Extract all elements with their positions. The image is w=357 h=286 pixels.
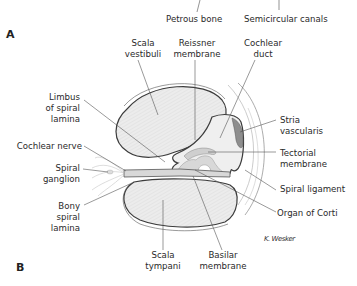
label-line: Reissner: [172, 38, 222, 49]
label-reissner-membrane: Reissner membrane: [172, 38, 222, 60]
label-line: membrane: [198, 261, 248, 272]
label-line: lamina: [30, 223, 80, 234]
artist-signature: K. Wesker: [264, 234, 295, 245]
spiral-ganglion-leader: [83, 169, 108, 172]
label-line: of spiral: [30, 103, 80, 114]
outer-arc-3: [245, 108, 258, 205]
label-line: Tectorial: [280, 148, 327, 159]
label-petrous-bone: Petrous bone: [166, 14, 222, 25]
label-scala-tympani: Scala tympani: [140, 250, 186, 272]
label-line: Scala: [118, 38, 168, 49]
label-line: ganglion: [30, 174, 80, 185]
label-line: Basilar: [198, 250, 248, 261]
label-cochlear-nerve: Cochlear nerve: [4, 141, 82, 152]
label-line: vestibuli: [118, 49, 168, 60]
label-line: Scala: [140, 250, 186, 261]
label-scala-vestibuli: Scala vestibuli: [118, 38, 168, 60]
label-line: vascularis: [280, 126, 323, 137]
spiral-ganglion: [92, 157, 124, 196]
label-line: Limbus: [30, 92, 80, 103]
label-line: Spiral: [30, 163, 80, 174]
label-basilar-membrane: Basilar membrane: [198, 250, 248, 272]
label-stria-vascularis: Stria vascularis: [280, 115, 323, 137]
label-semicircular-canals: Semicircular canals: [244, 14, 328, 25]
label-line: duct: [238, 49, 288, 60]
cochlear-nerve-leader: [84, 146, 126, 171]
label-line: tympani: [140, 261, 186, 272]
label-tectorial-membrane: Tectorial membrane: [280, 148, 327, 170]
panel-label-a: A: [6, 28, 15, 41]
label-line: Stria: [280, 115, 323, 126]
stria-leader: [240, 120, 276, 132]
label-spiral-ligament: Spiral ligament: [280, 184, 345, 195]
label-spiral-ganglion: Spiral ganglion: [30, 163, 80, 185]
label-bony-spiral-lamina: Bony spiral lamina: [30, 201, 80, 234]
label-cochlear-duct: Cochlear duct: [238, 38, 288, 60]
panel-label-b: B: [16, 261, 24, 274]
label-line: membrane: [172, 49, 222, 60]
label-line: lamina: [30, 114, 80, 125]
label-line: Cochlear: [238, 38, 288, 49]
scala-tympani: [124, 179, 237, 227]
label-line: Bony: [30, 201, 80, 212]
label-line: spiral: [30, 212, 80, 223]
label-organ-of-corti: Organ of Corti: [277, 208, 338, 219]
label-limbus: Limbus of spiral lamina: [30, 92, 80, 125]
label-line: membrane: [280, 159, 327, 170]
petrous-bone-leader: [197, 0, 200, 12]
